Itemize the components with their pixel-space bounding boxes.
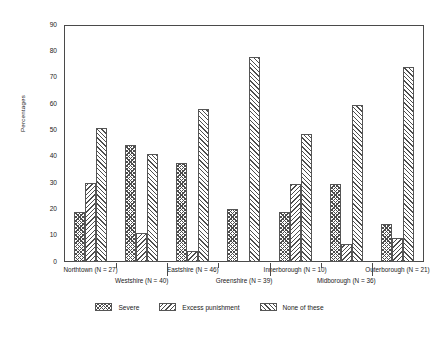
x-axis-group-separator (218, 263, 219, 268)
bar-group (116, 26, 167, 262)
bar-severe (381, 224, 392, 262)
bar-excess-punishment (187, 251, 198, 262)
x-axis-group-separator (321, 263, 322, 268)
bar-none-of-these (198, 109, 209, 262)
x-axis-group-label: Greenshire (N = 39) (216, 277, 273, 284)
x-axis-group-label: Northtown (N = 27) (63, 266, 117, 273)
y-tick-label: 20 (50, 205, 57, 212)
bar-group (218, 26, 269, 262)
y-tick-label: 30 (50, 179, 57, 186)
bar-group (270, 26, 321, 262)
bar-groups (65, 26, 423, 262)
bar-severe (125, 145, 136, 262)
legend-label: Excess punishment (182, 304, 239, 311)
backslash-hatch-icon (159, 303, 176, 311)
bar-none-of-these (403, 67, 414, 262)
crosshatch-icon (95, 303, 112, 311)
bar-excess-punishment (136, 233, 147, 262)
x-axis-group-separator (116, 263, 117, 268)
legend-label: Severe (118, 304, 139, 311)
bar-group (321, 26, 372, 262)
x-axis-group-label: Eastshire (N = 46) (167, 266, 219, 273)
bar-group (167, 26, 218, 262)
legend-item[interactable]: Severe (95, 303, 159, 311)
x-axis-group-separator (372, 263, 373, 276)
x-axis-group-label: Westshire (N = 40) (115, 277, 168, 284)
bar-none-of-these (352, 105, 363, 262)
bar-excess-punishment (85, 183, 96, 262)
bar-chart-figure: Percentages 0102030405060708090 Northtow… (0, 0, 439, 337)
bar-excess-punishment (392, 238, 403, 262)
y-tick-label: 50 (50, 126, 57, 133)
bar-excess-punishment (290, 184, 301, 262)
y-tick-label: 60 (50, 100, 57, 107)
y-tick-label: 10 (50, 231, 57, 238)
x-axis-group-label: Midborough (N = 36) (317, 277, 376, 284)
y-axis-title: Percentages (19, 54, 26, 174)
bar-severe (176, 163, 187, 262)
bar-group (65, 26, 116, 262)
bar-excess-punishment (341, 244, 352, 262)
bar-severe (74, 212, 85, 262)
bar-severe (279, 212, 290, 262)
legend-item[interactable]: Excess punishment (159, 303, 259, 311)
bar-severe (227, 209, 238, 262)
x-axis-group-separator (167, 263, 168, 276)
bar-none-of-these (301, 134, 312, 262)
legend-label: None of these (283, 304, 324, 311)
y-tick-label: 80 (50, 47, 57, 54)
x-axis-group-label: Innerborough (N = 10) (264, 266, 327, 273)
bar-none-of-these (249, 57, 260, 262)
forwardslash-hatch-icon (260, 303, 277, 311)
y-tick-label: 70 (50, 73, 57, 80)
x-axis-group-separator (270, 263, 271, 276)
chart-legend: SevereExcess punishmentNone of these (0, 303, 439, 311)
y-tick-label: 0 (53, 258, 57, 265)
legend-item[interactable]: None of these (260, 303, 344, 311)
bar-group (372, 26, 423, 262)
y-tick-label: 90 (50, 21, 57, 28)
bar-none-of-these (147, 154, 158, 262)
y-tick-label: 40 (50, 152, 57, 159)
bar-severe (330, 184, 341, 262)
bar-none-of-these (96, 128, 107, 262)
x-axis-group-label: Outerborough (N = 21) (365, 266, 429, 273)
